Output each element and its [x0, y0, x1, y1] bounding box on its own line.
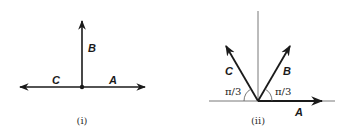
origin-dot — [80, 85, 84, 89]
caption-i: (i) — [76, 115, 87, 126]
angle-arc-right — [265, 89, 272, 101]
label-b: B — [283, 65, 291, 77]
label-b: B — [88, 42, 96, 54]
figure-i: B C A (i) — [20, 21, 145, 126]
caption-ii: (ii) — [251, 115, 265, 126]
label-c: C — [225, 65, 234, 77]
label-a: A — [108, 74, 117, 86]
label-a: A — [294, 106, 303, 118]
label-c: C — [52, 74, 61, 86]
angle-label-left: π/3 — [225, 86, 241, 97]
angle-label-right: π/3 — [275, 86, 291, 97]
vector-diagrams: B C A (i) C B π/3 π/3 A (ii) — [0, 0, 349, 138]
figure-ii: C B π/3 π/3 A (ii) — [209, 11, 335, 126]
angle-arc-left — [244, 89, 251, 101]
